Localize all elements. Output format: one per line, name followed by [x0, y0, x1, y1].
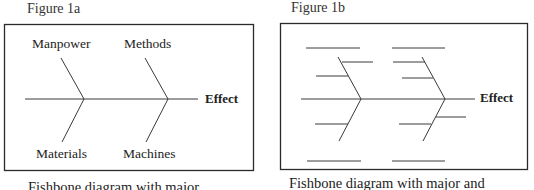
figure-1a-bone-materials	[62, 99, 84, 142]
figure-1a-caption: Fishbone diagram with major	[28, 179, 199, 190]
figure-1b-bone-upper-left	[338, 57, 361, 99]
figure-1a-bone-manpower	[61, 58, 84, 99]
figure-1a-bone-machines	[146, 99, 168, 142]
figure-1a-bone-methods	[145, 58, 168, 99]
fishbone-figures: Manpower Methods Materials Machines Effe…	[0, 0, 534, 190]
figure-1b-bone-lower-right	[423, 99, 445, 141]
figure-1b-bone-lower-left	[339, 99, 361, 141]
figure-1a-label-methods: Methods	[124, 36, 171, 51]
figure-1a-effect-label: Effect	[205, 91, 239, 106]
figure-1a-label-materials: Materials	[36, 146, 87, 161]
figure-1a-label-machines: Machines	[123, 146, 175, 161]
figure-1b-caption: Fishbone diagram with major and	[289, 175, 485, 190]
figure-1a-label-manpower: Manpower	[32, 36, 91, 51]
figure-1b-effect-label: Effect	[480, 90, 514, 105]
